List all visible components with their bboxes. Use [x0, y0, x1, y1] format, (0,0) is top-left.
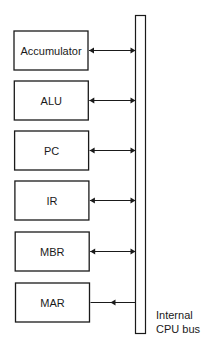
register-mbr: MBR — [15, 232, 135, 271]
bus-label-line2: CPU bus — [156, 323, 201, 335]
arrowhead-left-icon — [111, 300, 116, 306]
arrowhead-left-icon — [90, 148, 95, 154]
register-ir: IR — [15, 181, 136, 220]
arrowhead-left-icon — [90, 198, 95, 204]
cpu-bus-diagram: AccumulatorALUPCIRMBRMAR Internal CPU bu… — [0, 0, 210, 347]
register-label: Accumulator — [20, 45, 81, 57]
register-label: PC — [44, 145, 59, 157]
internal-cpu-bus — [136, 16, 146, 334]
register-alu: ALU — [14, 81, 135, 120]
arrowhead-left-icon — [89, 98, 94, 104]
register-label: MBR — [40, 246, 65, 258]
arrowhead-right-icon — [131, 98, 136, 104]
register-label: IR — [46, 195, 57, 207]
arrowhead-right-icon — [131, 198, 136, 204]
arrowhead-right-icon — [131, 249, 136, 255]
arrowhead-right-icon — [131, 48, 136, 54]
register-mar: MAR — [16, 283, 136, 322]
register-label: MAR — [40, 297, 65, 309]
register-accumulator: Accumulator — [14, 31, 136, 70]
bus-label-line1: Internal — [156, 309, 193, 321]
arrowhead-left-icon — [90, 249, 95, 255]
arrowhead-left-icon — [89, 48, 94, 54]
register-label: ALU — [41, 95, 62, 107]
arrowhead-right-icon — [131, 148, 136, 154]
register-pc: PC — [15, 131, 136, 170]
